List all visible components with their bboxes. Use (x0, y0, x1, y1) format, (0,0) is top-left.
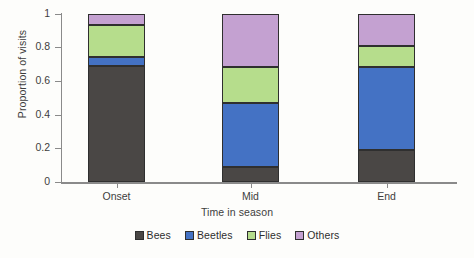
bar-segment-beetles (88, 57, 145, 65)
bar-segment-flies (358, 46, 415, 68)
y-axis-tick-label: 0.8 (6, 40, 50, 52)
x-axis-tick-mark (251, 182, 252, 188)
y-axis-tick-label: 0.4 (6, 108, 50, 120)
bar-segment-beetles (358, 67, 415, 150)
x-axis-category-label: Onset (72, 190, 162, 202)
y-axis-tick-label: 1 (6, 7, 50, 19)
y-axis-tick-label: 0 (6, 175, 50, 187)
stacked-bar-chart: Proportion of visits 00.20.40.60.81 Onse… (0, 0, 474, 258)
legend-item-bees: Bees (135, 229, 171, 241)
bar-segment-others (222, 14, 279, 68)
legend-label-others: Others (307, 229, 339, 241)
y-axis-tick-mark (55, 14, 62, 15)
legend-item-others: Others (295, 229, 339, 241)
bar-segment-others (358, 14, 415, 46)
y-axis-tick-mark (55, 148, 62, 149)
y-axis-tick-mark (55, 115, 62, 116)
y-axis-tick-label: 0.2 (6, 141, 50, 153)
x-axis-tick-mark (117, 182, 118, 188)
bar-segment-others (88, 14, 145, 26)
legend-item-flies: Flies (247, 229, 282, 241)
bar-segment-bees (88, 66, 145, 182)
bar-segment-flies (88, 25, 145, 57)
legend-label-beetles: Beetles (197, 229, 233, 241)
y-axis-line (61, 13, 62, 183)
bar-onset (88, 14, 145, 183)
x-axis-category-label: Mid (206, 190, 296, 202)
legend-item-beetles: Beetles (185, 229, 233, 241)
bar-mid (222, 14, 279, 183)
legend-label-flies: Flies (259, 229, 282, 241)
x-axis-line (61, 182, 457, 184)
bar-segment-bees (358, 150, 415, 182)
y-axis-tick-mark (55, 81, 62, 82)
chart-legend: BeesBeetlesFliesOthers (0, 229, 474, 241)
legend-swatch-beetles (185, 231, 194, 240)
legend-swatch-others (295, 231, 304, 240)
x-axis-tick-mark (387, 182, 388, 188)
x-axis-title: Time in season (0, 206, 474, 218)
bar-segment-flies (222, 67, 279, 102)
legend-swatch-bees (135, 231, 144, 240)
bar-end (358, 14, 415, 183)
y-axis-tick-mark (55, 47, 62, 48)
x-axis-category-label: End (342, 190, 432, 202)
bar-segment-bees (222, 167, 279, 182)
y-axis-tick-label: 0.6 (6, 74, 50, 86)
legend-swatch-flies (247, 231, 256, 240)
legend-label-bees: Bees (147, 229, 171, 241)
bar-segment-beetles (222, 103, 279, 167)
